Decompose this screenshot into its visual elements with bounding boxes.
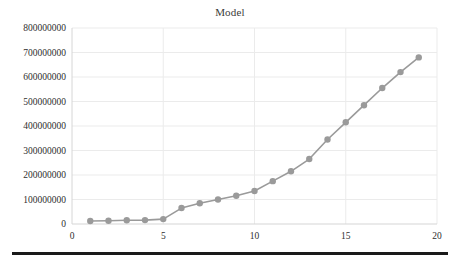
data-point-marker — [397, 69, 403, 75]
x-tick-label: 15 — [341, 231, 351, 241]
data-point-marker — [416, 54, 422, 60]
data-point-marker — [361, 102, 367, 108]
y-tick-label: 500000000 — [23, 97, 66, 107]
y-tick-label: 400000000 — [23, 121, 66, 131]
x-axis-tick-labels: 05101520 — [70, 231, 442, 241]
x-tick-label: 20 — [432, 231, 442, 241]
data-point-marker — [215, 196, 221, 202]
data-point-marker — [270, 178, 276, 184]
bottom-horizontal-rule — [12, 252, 448, 255]
y-tick-label: 800000000 — [23, 23, 66, 33]
y-tick-label: 200000000 — [23, 170, 66, 180]
data-point-marker — [306, 156, 312, 162]
data-point-marker — [324, 136, 330, 142]
data-point-marker — [197, 200, 203, 206]
y-tick-label: 100000000 — [23, 195, 66, 205]
x-tick-label: 10 — [250, 231, 260, 241]
data-point-marker — [87, 218, 93, 224]
x-tick-label: 5 — [161, 231, 166, 241]
data-point-marker — [251, 188, 257, 194]
line-chart-plot: 0100000000200000000300000000400000000500… — [0, 0, 460, 263]
data-point-marker — [233, 193, 239, 199]
y-tick-label: 300000000 — [23, 146, 66, 156]
data-point-marker — [343, 119, 349, 125]
y-tick-label: 700000000 — [23, 48, 66, 58]
data-point-marker — [160, 216, 166, 222]
data-point-marker — [124, 217, 130, 223]
chart-figure: Model 0100000000200000000300000000400000… — [0, 0, 460, 263]
data-point-marker — [142, 217, 148, 223]
y-tick-label: 600000000 — [23, 72, 66, 82]
y-tick-label: 0 — [61, 219, 66, 229]
data-point-marker — [379, 85, 385, 91]
data-point-marker — [105, 218, 111, 224]
y-axis-tick-labels: 0100000000200000000300000000400000000500… — [23, 23, 66, 229]
data-point-marker — [288, 168, 294, 174]
x-tick-label: 0 — [70, 231, 75, 241]
data-point-marker — [178, 205, 184, 211]
